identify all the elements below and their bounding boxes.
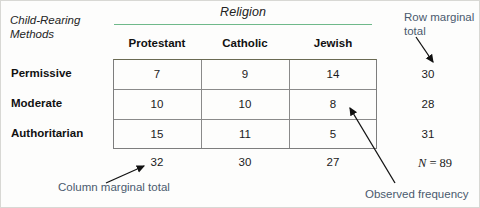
arrow-row-marginal	[416, 37, 433, 62]
row-marginal-total: 31	[405, 128, 451, 140]
row-marginal-total: 28	[405, 98, 451, 110]
grand-total: N = 89	[405, 156, 465, 171]
column-header-jewish: Jewish	[289, 37, 377, 49]
annotation-row-marginal-total: Row marginal total	[404, 11, 474, 38]
row-label-permissive: Permissive	[11, 67, 72, 79]
stub-head-line-2: Methods	[10, 27, 80, 41]
contingency-table-figure: Religion Child-Rearing Methods Protestan…	[0, 0, 480, 208]
column-group-title: Religion	[114, 5, 372, 19]
table-cell: 5	[289, 128, 377, 140]
table-cell: 9	[201, 68, 289, 80]
table-cell: 14	[289, 68, 377, 80]
grid-hline-1	[114, 89, 376, 90]
column-header-protestant: Protestant	[113, 37, 201, 49]
stub-head-line-1: Child-Rearing	[10, 13, 80, 27]
column-marginal-total: 27	[289, 156, 377, 168]
table-cell-observed-frequency: 8	[289, 98, 377, 110]
table-cell: 10	[201, 98, 289, 110]
grand-total-equals: =	[426, 156, 439, 170]
annotation-row-marginal-line-2: total	[404, 25, 474, 39]
annotation-observed-frequency: Observed frequency	[365, 188, 469, 202]
annotation-column-marginal-total: Column marginal total	[58, 181, 170, 195]
grand-total-symbol: N	[418, 156, 426, 170]
column-header-catholic: Catholic	[201, 37, 289, 49]
annotation-row-marginal-line-1: Row marginal	[404, 11, 474, 25]
column-marginal-total: 32	[113, 156, 201, 168]
table-cell: 7	[113, 68, 201, 80]
grid-hline-2	[114, 119, 376, 120]
table-cell: 15	[113, 128, 201, 140]
grand-total-value: 89	[440, 156, 453, 170]
row-label-authoritarian: Authoritarian	[11, 127, 83, 139]
row-label-moderate: Moderate	[11, 97, 62, 109]
column-marginal-total: 30	[201, 156, 289, 168]
table-cell: 10	[113, 98, 201, 110]
row-marginal-total: 30	[405, 68, 451, 80]
stub-head: Child-Rearing Methods	[10, 13, 80, 41]
column-group-rule	[114, 24, 372, 25]
table-cell: 11	[201, 128, 289, 140]
